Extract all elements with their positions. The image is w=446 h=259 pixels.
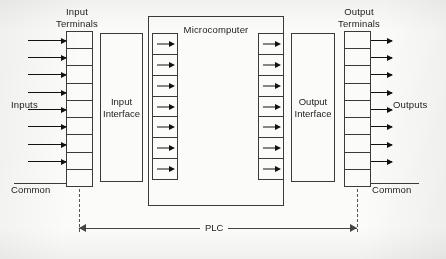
plc-dimension-arrowhead-left <box>79 224 86 232</box>
input-interface-label-line2: Interface <box>103 108 140 120</box>
input-terminals-heading-line2: Terminals <box>48 18 106 30</box>
terminal-cell <box>259 76 283 97</box>
input-signal-arrow <box>28 161 66 162</box>
terminal-cell <box>153 55 177 76</box>
output-signal-arrow <box>371 57 392 58</box>
terminal-cell <box>345 84 370 101</box>
terminal-cell <box>259 97 283 118</box>
output-signal-arrow <box>371 40 392 41</box>
common-right-label: Common <box>372 184 411 196</box>
output-signal-arrow <box>371 92 392 93</box>
terminal-cell <box>259 34 283 55</box>
terminal-cell <box>67 66 92 83</box>
input-interface-label-line1: Input <box>111 96 132 108</box>
terminal-cell <box>259 117 283 138</box>
output-signal-arrow <box>371 126 392 127</box>
terminal-cell <box>345 66 370 83</box>
input-terminal-strip <box>66 31 93 187</box>
output-interface-label: Output Interface <box>291 33 335 182</box>
terminal-cell <box>345 32 370 49</box>
output-terminals-heading-line1: Output <box>327 6 391 18</box>
input-signal-arrow <box>28 57 66 58</box>
terminal-cell <box>345 135 370 152</box>
input-terminals-heading: Input Terminals <box>48 6 106 29</box>
terminal-cell <box>259 138 283 159</box>
output-signal-arrow <box>371 109 392 110</box>
terminal-cell <box>153 117 177 138</box>
terminal-cell <box>67 49 92 66</box>
terminal-cell <box>259 159 283 179</box>
output-signal-arrow <box>371 161 392 162</box>
input-signal-arrow <box>28 92 66 93</box>
terminal-cell <box>67 101 92 118</box>
terminal-cell <box>67 84 92 101</box>
terminal-cell <box>153 138 177 159</box>
input-interface-label: Input Interface <box>100 33 143 182</box>
input-signal-arrow <box>28 74 66 75</box>
microcomputer-output-column <box>258 33 284 180</box>
outputs-label: Outputs <box>393 99 427 111</box>
inputs-label: Inputs <box>11 99 38 111</box>
terminal-cell <box>153 34 177 55</box>
terminal-cell <box>67 135 92 152</box>
terminal-cell <box>153 76 177 97</box>
output-signal-arrow <box>371 144 392 145</box>
input-signal-arrow <box>28 144 66 145</box>
microcomputer-label: Microcomputer <box>178 24 254 36</box>
terminal-cell <box>153 159 177 179</box>
plc-dimension-arrowhead-right <box>350 224 357 232</box>
output-interface-label-line1: Output <box>299 96 328 108</box>
input-terminals-heading-line1: Input <box>48 6 106 18</box>
terminal-cell <box>67 118 92 135</box>
output-terminals-heading-line2: Terminals <box>327 18 391 30</box>
output-terminals-heading: Output Terminals <box>327 6 391 29</box>
terminal-cell <box>67 170 92 186</box>
terminal-cell <box>345 49 370 66</box>
plc-extent-leader-right <box>357 189 358 232</box>
terminal-cell <box>259 55 283 76</box>
terminal-cell <box>153 97 177 118</box>
input-signal-arrow <box>28 126 66 127</box>
terminal-cell <box>345 153 370 170</box>
terminal-cell <box>67 32 92 49</box>
plc-block-diagram: Input Terminals Output Terminals Inputs … <box>0 0 446 259</box>
terminal-cell <box>345 101 370 118</box>
output-signal-arrow <box>371 74 392 75</box>
terminal-cell <box>67 153 92 170</box>
plc-dimension-label: PLC <box>200 222 228 233</box>
output-interface-label-line2: Interface <box>295 108 332 120</box>
input-signal-arrow <box>28 40 66 41</box>
terminal-cell <box>345 118 370 135</box>
microcomputer-input-column <box>152 33 178 180</box>
terminal-cell <box>345 170 370 186</box>
output-terminal-strip <box>344 31 371 187</box>
common-left-label: Common <box>11 184 50 196</box>
